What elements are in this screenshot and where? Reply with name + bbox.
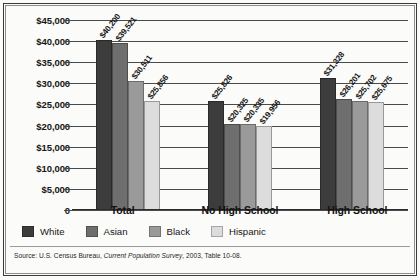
plot-area: $40,200$39,521$30,511$25,856$25,826$20,3… (72, 20, 408, 210)
bar-hispanic: $19,956 (256, 126, 272, 210)
bar-cluster: $40,200$39,521$30,511$25,856 (96, 20, 160, 210)
legend-swatch (149, 226, 161, 237)
source-suffix: , 2003, Table 10-08. (182, 252, 241, 259)
y-axis-tick-label: $40,000 (8, 36, 70, 47)
y-axis-tick-label: $20,000 (8, 120, 70, 131)
bar-white: $25,826 (208, 101, 224, 210)
source-note: Source: U.S. Census Bureau, Current Popu… (14, 252, 242, 259)
bar-cluster: $25,826$20,325$20,335$19,956 (208, 20, 272, 210)
bar-group: $40,200$39,521$30,511$25,856 (72, 20, 184, 210)
y-axis-tick-mark (64, 168, 72, 169)
bar-white: $31,328 (320, 78, 336, 210)
category-labels: TotalNo High SchoolHigh School (64, 204, 416, 216)
bar-black: $20,335 (240, 124, 256, 210)
y-axis-tick-mark (64, 83, 72, 84)
bar-value-label: $30,511 (130, 54, 154, 81)
chart-legend: WhiteAsianBlackHispanic (22, 226, 287, 237)
legend-swatch (22, 226, 34, 237)
bar-black: $30,511 (128, 81, 144, 210)
bar-group: $25,826$20,325$20,335$19,956 (184, 20, 296, 210)
legend-label: Asian (104, 226, 128, 237)
bar-value-label: $25,826 (210, 73, 234, 101)
y-axis-tick-label: $35,000 (8, 57, 70, 68)
bar-white: $40,200 (96, 40, 112, 210)
bar-groups: $40,200$39,521$30,511$25,856$25,826$20,3… (72, 20, 408, 210)
legend-item-hispanic[interactable]: Hispanic (211, 226, 266, 237)
bar-cluster: $31,328$26,201$25,702$25,675 (320, 20, 384, 210)
legend-item-asian[interactable]: Asian (86, 226, 128, 237)
y-axis-tick-mark (64, 41, 72, 42)
bar-asian: $26,201 (336, 99, 352, 210)
legend-divider (10, 246, 410, 247)
bar-value-label: $25,856 (146, 73, 170, 101)
legend-label: White (40, 226, 65, 237)
plot-wrapper: $45,000$40,000$35,000$30,000$25,000$20,0… (8, 8, 412, 220)
bar-black: $25,702 (352, 101, 368, 210)
y-axis-tick-mark (64, 20, 72, 21)
legend-label: Hispanic (229, 226, 266, 237)
y-axis: $45,000$40,000$35,000$30,000$25,000$20,0… (8, 20, 70, 210)
bar-asian: $39,521 (112, 43, 128, 210)
legend-swatch (211, 226, 223, 237)
category-label: Total (64, 204, 181, 216)
legend-label: Black (167, 226, 190, 237)
legend-item-white[interactable]: White (22, 226, 65, 237)
bar-hispanic: $25,856 (144, 101, 160, 210)
y-axis-tick-label: $15,000 (8, 141, 70, 152)
legend-item-black[interactable]: Black (149, 226, 190, 237)
legend-swatch (86, 226, 98, 237)
category-label: High School (299, 204, 416, 216)
y-axis-tick-label: 0 (8, 205, 70, 216)
y-axis-tick-mark (64, 189, 72, 190)
y-axis-tick-label: $10,000 (8, 162, 70, 173)
bar-hispanic: $25,675 (368, 102, 384, 210)
bar-value-label: $31,328 (322, 50, 346, 78)
y-axis-tick-label: $45,000 (8, 15, 70, 26)
y-axis-tick-mark (64, 126, 72, 127)
y-axis-tick-label: $5,000 (8, 183, 70, 194)
bar-asian: $20,325 (224, 124, 240, 210)
y-axis-tick-mark (64, 62, 72, 63)
y-axis-tick-mark (64, 104, 72, 105)
bar-group: $31,328$26,201$25,702$25,675 (296, 20, 408, 210)
chart-figure: $45,000$40,000$35,000$30,000$25,000$20,0… (0, 0, 420, 280)
category-label: No High School (181, 204, 298, 216)
y-axis-tick-mark (64, 147, 72, 148)
source-prefix: Source: U.S. Census Bureau, (14, 252, 102, 259)
y-axis-tick-label: $30,000 (8, 78, 70, 89)
y-axis-tick-label: $25,000 (8, 99, 70, 110)
source-publication: Current Population Survey (104, 252, 183, 259)
